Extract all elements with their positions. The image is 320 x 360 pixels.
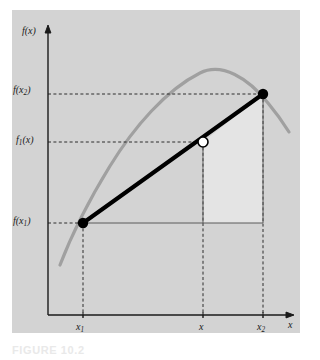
x-tick-label-x: x [199, 322, 203, 334]
figure-caption: FIGURE 10.2 [12, 344, 85, 356]
x-axis-label: x [288, 320, 292, 330]
x-tick-label-x1: x1 [76, 322, 84, 334]
point-x2-marker [258, 89, 268, 99]
y-axis-label: f(x) [22, 26, 36, 36]
y-tick-label-f-x2: f(x2) [13, 85, 30, 97]
x-axis-arrowhead [286, 312, 294, 318]
x-tick-x2-sub: 2 [261, 326, 265, 334]
point-x-interp-marker [198, 137, 208, 147]
plot-canvas [0, 0, 320, 360]
y-tick-f-x2-main: f(x [13, 84, 24, 95]
y-axis-label-text: f(x) [22, 25, 36, 36]
x-tick-x1-sub: 1 [80, 326, 84, 334]
y-tick-f-x1-tail: ) [27, 215, 30, 226]
figure-container: f(x) f(x2) f1(x) f(x1) x1 x x2 x FIGURE … [0, 0, 320, 360]
y-tick-label-f1-x: f1(x) [16, 135, 33, 147]
x-axis-label-text: x [288, 319, 292, 330]
y-axis-arrowhead [45, 25, 51, 33]
y-tick-label-f-x1: f(x1) [13, 216, 30, 228]
y-tick-f-x2-tail: ) [27, 84, 30, 95]
point-x1-marker [78, 218, 88, 228]
y-tick-f-x1-main: f(x [13, 215, 24, 226]
x-tick-x-main: x [199, 321, 203, 332]
x-tick-label-x2: x2 [257, 322, 265, 334]
y-tick-f1-x-tail: (x) [22, 134, 33, 145]
